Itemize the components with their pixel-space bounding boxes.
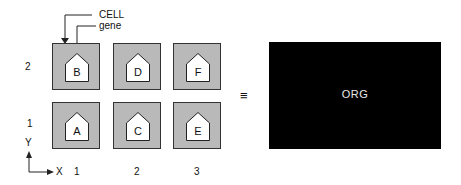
organism-box: ORG [269, 42, 441, 149]
gene-d: D [126, 53, 150, 82]
col-label-1: 1 [74, 166, 80, 177]
gene-c: C [126, 112, 150, 141]
cell-b: B [52, 43, 100, 90]
cell-f: F [173, 43, 221, 90]
row-label-1: 1 [27, 118, 33, 129]
cell-e: E [173, 102, 221, 149]
organism-label: ORG [269, 88, 441, 100]
gene-callout-label: gene [99, 20, 121, 31]
row-label-2: 2 [25, 61, 31, 72]
gene-b: B [65, 53, 89, 82]
col-label-3: 3 [194, 166, 200, 177]
y-axis-label: Y [25, 137, 32, 148]
cell-callout-label: CELL [99, 9, 124, 20]
gene-a: A [65, 112, 89, 141]
cell-a: A [52, 102, 100, 149]
cell-c: C [113, 102, 161, 149]
cell-d: D [113, 43, 161, 90]
equivalence-icon: ≡ [240, 88, 248, 103]
gene-e: E [186, 112, 210, 141]
x-axis-label: X [56, 166, 63, 177]
col-label-2: 2 [134, 166, 140, 177]
gene-f: F [186, 53, 210, 82]
